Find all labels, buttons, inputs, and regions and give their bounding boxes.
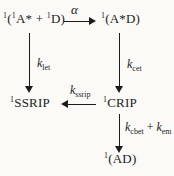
state-ssrip: 1SSRIP <box>10 96 50 112</box>
spin-superscript: 1 <box>10 95 14 104</box>
arrowhead-right-icon <box>89 17 96 25</box>
state-crip: 1CRIP <box>103 96 137 112</box>
rate-subscript: em <box>162 127 172 136</box>
state-text: SSRIP <box>14 95 50 110</box>
arrow-exciplex-to-crip <box>119 33 120 87</box>
kinetic-scheme-diagram: 1(1A* + 1D) α 1(A*D) klet kcet 1SSRIP ks… <box>0 0 174 176</box>
rate-subscript: ssrip <box>75 90 90 99</box>
spin-superscript: 1 <box>12 11 16 20</box>
rate-alpha-label: α <box>71 2 78 18</box>
arrow-crip-to-ground <box>119 114 120 147</box>
rate-symbol: k <box>156 120 161 134</box>
plus-sign: + <box>144 120 157 134</box>
spin-superscript: 1 <box>101 11 105 20</box>
rate-k-let-label: klet <box>37 57 50 71</box>
rate-k-ssrip-label: kssrip <box>70 84 90 98</box>
arrowhead-down-icon <box>25 86 33 93</box>
state-text: A* + <box>16 11 47 26</box>
rate-subscript: cbet <box>130 127 143 136</box>
rate-k-cbet-plus-k-em-label: kcbet + kem <box>125 121 172 135</box>
state-text: (AD) <box>108 151 136 166</box>
spin-superscript: 1 <box>47 11 51 20</box>
state-text: D) <box>51 11 65 26</box>
spin-superscript: 1 <box>103 95 107 104</box>
arrowhead-left-icon <box>61 100 68 108</box>
state-text: (A*D) <box>105 11 140 26</box>
arrow-encounter-to-ssrip <box>29 33 30 87</box>
arrow-encounter-to-exciplex <box>64 21 90 22</box>
arrow-crip-to-ssrip <box>68 104 96 105</box>
spin-superscript: 1 <box>3 11 7 20</box>
rate-subscript: let <box>42 63 50 72</box>
state-text: CRIP <box>107 95 137 110</box>
state-ground: 1(AD) <box>104 152 136 168</box>
state-exciplex: 1(A*D) <box>101 12 140 28</box>
arrowhead-down-icon <box>115 86 123 93</box>
rate-subscript: cet <box>132 64 141 73</box>
state-encounter-pair: 1(1A* + 1D) <box>3 12 65 28</box>
spin-superscript: 1 <box>104 151 108 160</box>
rate-k-cet-label: kcet <box>127 58 142 72</box>
